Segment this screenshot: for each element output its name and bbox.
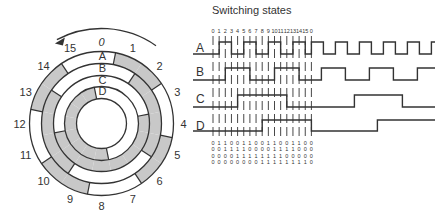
- bit-cell: 0: [248, 146, 251, 152]
- bit-cell: 0: [211, 146, 214, 152]
- bit-cell: 0: [267, 146, 270, 152]
- bit-cell: 1: [279, 146, 282, 152]
- state-number: 6: [248, 28, 251, 34]
- bit-cell: 1: [261, 159, 264, 165]
- state-number: 0: [211, 28, 214, 34]
- bit-cell: 0: [255, 140, 258, 146]
- position-label-15: 15: [64, 42, 76, 54]
- position-label-14: 14: [37, 60, 49, 72]
- bit-cell: 0: [261, 146, 264, 152]
- bit-cell: 1: [298, 159, 301, 165]
- bit-cell: 1: [236, 153, 239, 159]
- channel-label-b: B: [196, 65, 204, 79]
- state-number: 3: [230, 28, 233, 34]
- position-label-10: 10: [37, 175, 49, 187]
- bit-cell: 1: [279, 153, 282, 159]
- position-label-7: 7: [130, 193, 136, 205]
- bit-cell: 1: [304, 159, 307, 165]
- bit-cell: 0: [304, 140, 307, 146]
- state-number: 15: [302, 28, 308, 34]
- bit-cell: 0: [218, 159, 221, 165]
- position-label-11: 11: [20, 149, 31, 161]
- state-number: 8: [261, 28, 264, 34]
- bit-cell: 0: [230, 159, 233, 165]
- state-number: 0: [310, 28, 313, 34]
- position-label-8: 8: [98, 200, 104, 212]
- bit-cell: 1: [224, 140, 227, 146]
- bit-cell: 1: [279, 159, 282, 165]
- bit-cell: 1: [267, 153, 270, 159]
- bit-cell: 0: [224, 159, 227, 165]
- bit-cell: 1: [230, 146, 233, 152]
- waveform-b: [193, 68, 435, 80]
- bit-cell: 1: [273, 159, 276, 165]
- bit-cell: 1: [298, 140, 301, 146]
- bit-cell: 0: [298, 146, 301, 152]
- bit-cell: 0: [242, 159, 245, 165]
- bit-cell: 1: [291, 140, 294, 146]
- bit-cell: 0: [304, 153, 307, 159]
- position-label-4: 4: [180, 118, 186, 130]
- bit-cell: 0: [310, 140, 313, 146]
- encoder-diagram: ABCD012345678910111213141501234567891011…: [0, 0, 441, 218]
- position-label-9: 9: [67, 193, 73, 205]
- channel-label-a: A: [196, 41, 204, 55]
- ring-label-b: B: [99, 62, 106, 74]
- position-label-5: 5: [174, 149, 180, 161]
- bit-cell: 0: [298, 153, 301, 159]
- ring-label-d: D: [99, 85, 107, 97]
- bit-cell: 1: [261, 153, 264, 159]
- bit-cell: 1: [224, 146, 227, 152]
- state-number: 1: [218, 28, 221, 34]
- bit-cell: 0: [224, 153, 227, 159]
- bit-cell: 1: [255, 153, 258, 159]
- state-number: 9: [267, 28, 270, 34]
- bit-cell: 1: [273, 153, 276, 159]
- bit-cell: 0: [218, 146, 221, 152]
- bit-cell: 0: [255, 146, 258, 152]
- bit-cell: 1: [218, 140, 221, 146]
- bit-cell: 1: [242, 153, 245, 159]
- state-number: 4: [236, 28, 239, 34]
- bit-cell: 0: [211, 153, 214, 159]
- bit-cell: 0: [279, 140, 282, 146]
- bit-cell: 0: [310, 153, 313, 159]
- bit-cell: 0: [248, 159, 251, 165]
- bit-cell: 1: [242, 146, 245, 152]
- position-label-6: 6: [156, 175, 162, 187]
- waveform-c: [193, 95, 435, 107]
- bit-cell: 0: [211, 159, 214, 165]
- ring-label-a: A: [99, 50, 107, 62]
- switching-waveforms: [193, 36, 435, 138]
- bit-cell: 1: [236, 146, 239, 152]
- state-number: 7: [255, 28, 258, 34]
- bit-cell: 0: [261, 140, 264, 146]
- channel-label-c: C: [196, 92, 205, 106]
- bit-cell: 1: [273, 146, 276, 152]
- position-label-1: 1: [130, 42, 136, 54]
- bit-cell: 0: [310, 146, 313, 152]
- bit-cell: 0: [211, 140, 214, 146]
- position-label-3: 3: [174, 86, 180, 98]
- waveform-a: [193, 42, 435, 54]
- state-number: 10: [271, 28, 277, 34]
- bit-cell: 0: [310, 159, 313, 165]
- bit-cell: 0: [236, 140, 239, 146]
- state-number: 11: [278, 28, 284, 34]
- bit-cell: 1: [285, 146, 288, 152]
- state-number: 5: [242, 28, 245, 34]
- bit-cell: 0: [236, 159, 239, 165]
- bit-cell: 0: [291, 153, 294, 159]
- bit-cell: 0: [230, 140, 233, 146]
- waveform-d: [193, 120, 435, 131]
- bit-cell: 0: [285, 140, 288, 146]
- bit-cell: 1: [242, 140, 245, 146]
- bit-cell: 1: [267, 140, 270, 146]
- bit-cell: 1: [285, 159, 288, 165]
- position-label-2: 2: [156, 60, 162, 72]
- bit-cell: 1: [267, 159, 270, 165]
- bit-cell: 1: [248, 140, 251, 146]
- bit-cell: 1: [291, 159, 294, 165]
- position-label-0: 0: [98, 36, 105, 48]
- state-number: 2: [224, 28, 227, 34]
